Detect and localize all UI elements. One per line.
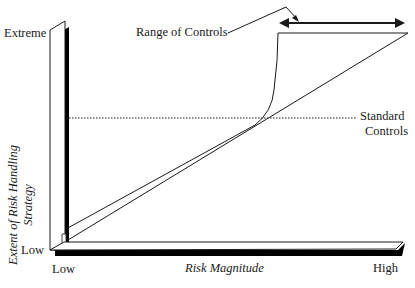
y-axis-wall bbox=[50, 21, 65, 250]
diagram-canvas bbox=[0, 0, 415, 288]
standard-controls-label-line2: Controls bbox=[365, 125, 408, 138]
range-leader-arrowhead bbox=[292, 15, 299, 22]
range-arrow-left-head bbox=[279, 18, 289, 28]
y-axis-title: Extent of Risk Handling Strategy bbox=[6, 120, 46, 288]
upper-curve bbox=[66, 33, 408, 229]
x-axis-right-label: High bbox=[373, 262, 398, 275]
range-arrow-right-head bbox=[395, 18, 405, 28]
y-axis-title-line1: Extent of Risk Handling bbox=[6, 120, 21, 288]
range-of-controls-label: Range of Controls bbox=[136, 26, 228, 39]
x-axis-title: Risk Magnitude bbox=[185, 262, 264, 275]
standard-controls-label-line1: Standard bbox=[360, 110, 404, 123]
lower-curve bbox=[68, 33, 408, 240]
y-axis-top-label: Extreme bbox=[4, 27, 46, 40]
y-axis-title-line2: Strategy bbox=[21, 120, 36, 288]
x-axis-floor bbox=[50, 242, 403, 250]
x-axis-left-label: Low bbox=[52, 263, 75, 276]
